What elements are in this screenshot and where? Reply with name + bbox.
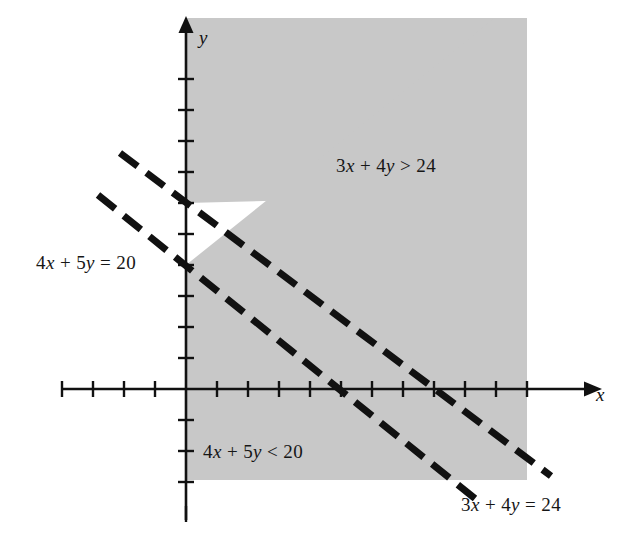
- label-region-upper: 3x + 4y > 24: [336, 155, 436, 177]
- x-axis-label: x: [596, 384, 604, 406]
- inequality-graph-figure: 3x + 4y > 24 4x + 5y = 20 4x + 5y < 20 3…: [0, 0, 623, 539]
- label-line-3x-4y-24: 3x + 4y = 24: [461, 494, 561, 516]
- label-line-4x-5y-20: 4x + 5y = 20: [36, 252, 136, 274]
- y-axis-label: y: [199, 27, 207, 49]
- label-region-lower: 4x + 5y < 20: [203, 441, 303, 463]
